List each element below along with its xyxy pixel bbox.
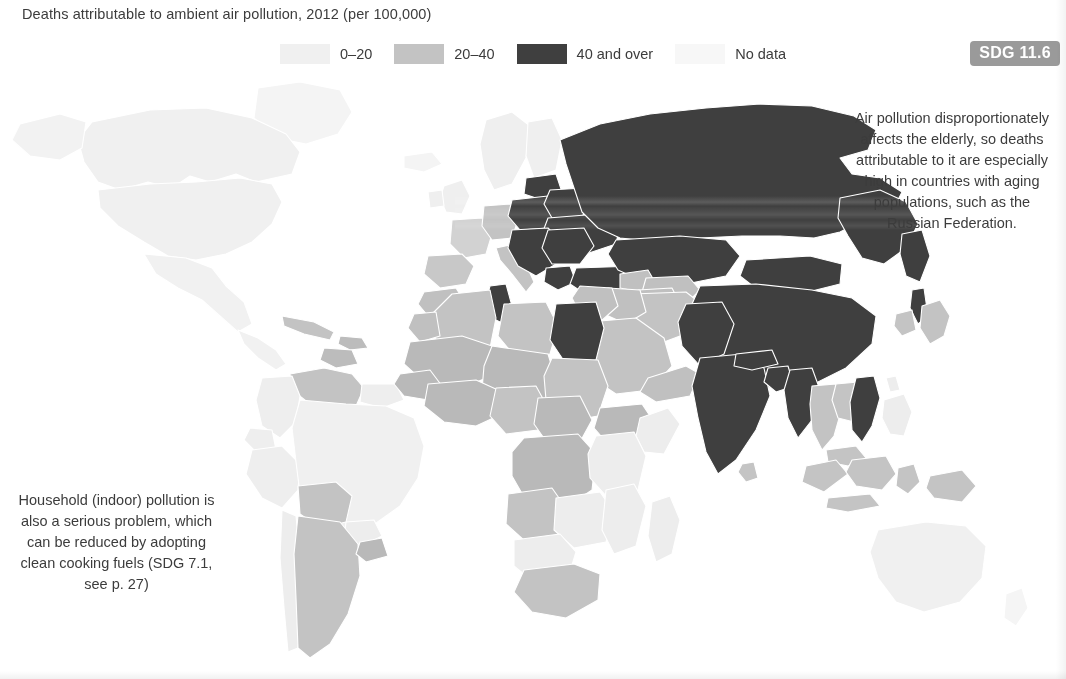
region-argentina: [294, 516, 360, 658]
region-java: [826, 494, 880, 512]
region-spain-portugal: [424, 254, 474, 288]
region-norway-sweden: [480, 112, 530, 190]
region-greece: [544, 266, 576, 290]
region-united-states: [98, 178, 282, 260]
region-romania-bulgaria: [542, 228, 594, 264]
legend-label-40-over: 40 and over: [577, 46, 654, 62]
region-korea: [894, 310, 916, 336]
region-cuba: [282, 316, 334, 340]
region-egypt: [550, 302, 604, 364]
status-badge: SDG 11.6: [970, 41, 1060, 66]
region-sri-lanka: [738, 462, 758, 482]
region-alaska: [12, 114, 86, 160]
legend-swatch-40-over: [517, 44, 567, 64]
region-taiwan: [886, 376, 900, 392]
region-mexico: [144, 254, 252, 332]
region-japan: [920, 300, 950, 344]
legend-swatch-no-data: [675, 44, 725, 64]
region-ireland: [428, 190, 444, 208]
annotation-right: Air pollution disproportionately affects…: [852, 108, 1052, 234]
region-madagascar: [648, 496, 680, 562]
region-sulawesi: [896, 464, 920, 494]
region-borneo: [846, 456, 896, 490]
region-western-sahara: [408, 312, 440, 342]
region-west-africa: [424, 380, 502, 426]
region-mozambique: [602, 484, 646, 554]
region-finland: [526, 118, 562, 178]
region-hispaniola: [338, 336, 368, 350]
region-philippines: [882, 394, 912, 436]
annotation-left: Household (indoor) pollution is also a s…: [14, 490, 219, 595]
region-papua: [926, 470, 976, 502]
region-uruguay: [356, 538, 388, 562]
legend-swatch-20-40: [394, 44, 444, 64]
region-uk: [440, 180, 470, 214]
region-central-america: [238, 330, 286, 370]
page-title: Deaths attributable to ambient air pollu…: [22, 6, 431, 22]
map-figure: Deaths attributable to ambient air pollu…: [0, 0, 1066, 679]
region-kamchatka: [900, 230, 930, 282]
region-haiti: [320, 348, 358, 368]
region-south-africa: [514, 564, 600, 618]
region-vietnam: [850, 376, 880, 442]
legend-label-no-data: No data: [735, 46, 786, 62]
legend: 0–20 20–40 40 and over No data: [280, 43, 786, 65]
region-india: [692, 354, 770, 474]
legend-label-20-40: 20–40: [454, 46, 494, 62]
region-new-zealand: [1004, 588, 1028, 626]
legend-swatch-0-20: [280, 44, 330, 64]
region-australia: [870, 522, 986, 612]
region-iceland: [404, 152, 442, 172]
legend-label-0-20: 0–20: [340, 46, 372, 62]
region-peru: [246, 446, 300, 508]
